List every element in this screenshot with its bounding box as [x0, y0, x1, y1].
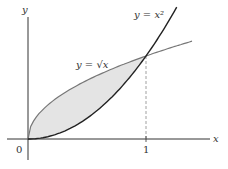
tick-label-one: 1 [143, 145, 149, 155]
x-axis-label: x [213, 134, 219, 144]
chart-plot [0, 0, 228, 169]
parabola-label: y = x² [134, 10, 164, 20]
origin-label: 0 [16, 145, 22, 155]
sqrt-label: y = √x [76, 60, 108, 70]
y-axis-label: y [22, 5, 28, 15]
